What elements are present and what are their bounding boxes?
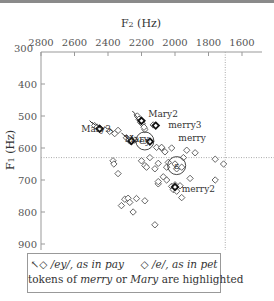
e-token-marker xyxy=(187,175,193,181)
e-token-marker xyxy=(118,202,124,208)
y-tick-label: 300 xyxy=(14,43,33,54)
e-token-marker xyxy=(168,145,174,151)
token-label-mary3: Mary3 xyxy=(81,124,111,134)
ey-tail xyxy=(132,111,135,114)
legend: ↖◇ /ey/, as in pay ◇ /e/, as in pet toke… xyxy=(27,253,221,293)
y-tick-label: 600 xyxy=(18,143,37,154)
x-tick-label: 1600 xyxy=(229,37,254,48)
e-token-marker xyxy=(147,154,153,160)
e-token-marker xyxy=(179,194,185,200)
e-token-marker xyxy=(130,209,136,215)
y-tick-label: 500 xyxy=(18,111,37,122)
token-label-merry3: merry3 xyxy=(168,120,202,130)
diamond-icon: ◇ xyxy=(141,258,149,270)
e-token-marker xyxy=(220,161,226,167)
legend-e-label: /e/, as in pet xyxy=(152,258,218,270)
x-axis-title: F2 (Hz) xyxy=(121,17,161,30)
ey-tail-diamond-icon: ↖◇ xyxy=(30,258,47,270)
token-label-mary2: Mary2 xyxy=(148,109,178,119)
e-token-marker xyxy=(155,160,161,166)
e-token-marker xyxy=(212,177,218,183)
e-token-marker xyxy=(133,195,139,201)
token-label-merry2: merry2 xyxy=(182,184,215,194)
e-token-marker xyxy=(152,222,158,228)
legend-row-symbols: ↖◇ /ey/, as in pay ◇ /e/, as in pet xyxy=(28,257,220,272)
legend-ey-label: /ey/, as in pay xyxy=(51,258,124,270)
x-tick-label: 2400 xyxy=(95,37,120,48)
e-token-marker xyxy=(192,150,198,156)
e-token-marker xyxy=(212,156,218,162)
x-tick-label: 1800 xyxy=(196,37,221,48)
mean-label: ey xyxy=(139,135,151,146)
x-tick-label: 2600 xyxy=(62,37,87,48)
x-tick-label: 2200 xyxy=(129,37,154,48)
y-axis-title: F1 (Hz) xyxy=(4,130,17,170)
y-tick-label: 400 xyxy=(18,79,37,90)
y-tick-label: 800 xyxy=(18,207,37,218)
e-token-marker xyxy=(184,147,190,153)
y-tick-label: 900 xyxy=(18,239,37,250)
legend-note: tokens of merry or Mary are highlighted xyxy=(28,272,220,287)
e-token-marker xyxy=(152,166,158,172)
x-tick-label: 2000 xyxy=(162,37,187,48)
mean-label: ɛ xyxy=(174,160,179,171)
y-tick-label: 700 xyxy=(18,175,37,186)
e-token-marker xyxy=(115,170,121,176)
token-label-merry: merry xyxy=(178,133,206,143)
e-token-marker xyxy=(142,198,148,204)
